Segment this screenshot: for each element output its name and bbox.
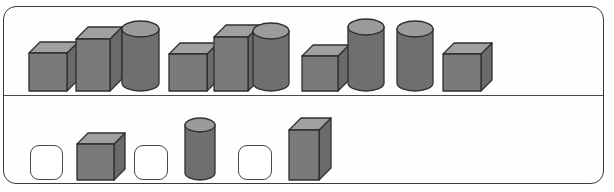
cube-shape <box>301 44 350 92</box>
answer-row <box>0 97 614 184</box>
cylinder-shape <box>184 117 216 181</box>
box-shape <box>75 26 123 92</box>
row-divider <box>4 95 603 96</box>
cylinder-shape <box>396 20 434 92</box>
cylinder-shape <box>252 22 290 92</box>
sequence-row <box>0 8 614 95</box>
answer-slot-5[interactable] <box>238 145 272 180</box>
cylinder-shape <box>121 20 160 92</box>
cube-shape <box>76 132 126 181</box>
shape-sequence-screenshot <box>0 0 614 192</box>
box-shape <box>288 117 332 181</box>
cube-shape <box>168 42 219 92</box>
answer-slot-1[interactable] <box>30 145 63 180</box>
cylinder-shape <box>347 18 385 92</box>
cube-shape <box>28 41 79 92</box>
answer-slot-3[interactable] <box>134 145 168 180</box>
cube-shape <box>442 42 493 92</box>
